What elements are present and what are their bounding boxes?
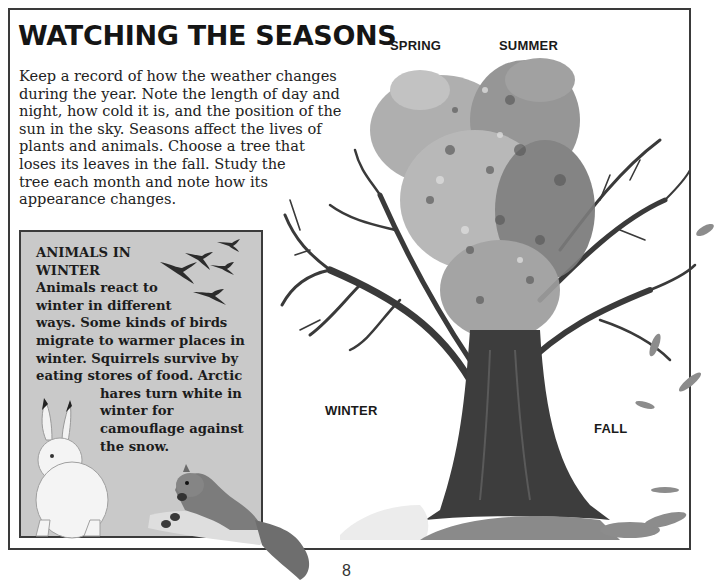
animals-heading-line: ANIMALS IN bbox=[36, 244, 245, 262]
animals-body-line: camouflage against bbox=[36, 420, 245, 438]
season-label-winter: WINTER bbox=[325, 403, 377, 418]
season-label-fall: FALL bbox=[594, 421, 627, 436]
animals-body-line: hares turn white in bbox=[36, 385, 245, 403]
squirrel-illustration bbox=[148, 464, 309, 580]
season-label-spring: SPRING bbox=[390, 38, 441, 53]
animals-body-line: winter. Squirrels survive by bbox=[36, 350, 245, 368]
animals-body-line: migrate to warmer places in bbox=[36, 332, 245, 350]
page-number: 8 bbox=[342, 562, 351, 580]
animals-body-line: the snow. bbox=[36, 438, 245, 456]
animals-body-line: winter in different bbox=[36, 297, 245, 315]
animals-heading-line: WINTER bbox=[36, 262, 245, 280]
season-label-summer: SUMMER bbox=[499, 38, 558, 53]
animals-in-winter-text: ANIMALS IN WINTER Animals react to winte… bbox=[36, 244, 245, 455]
tree-illustration bbox=[282, 58, 716, 540]
animals-body-line: Animals react to bbox=[36, 279, 245, 297]
animals-body-line: eating stores of food. Arctic bbox=[36, 367, 245, 385]
animals-body-line: ways. Some kinds of birds bbox=[36, 314, 245, 332]
animals-body-line: winter for bbox=[36, 402, 245, 420]
